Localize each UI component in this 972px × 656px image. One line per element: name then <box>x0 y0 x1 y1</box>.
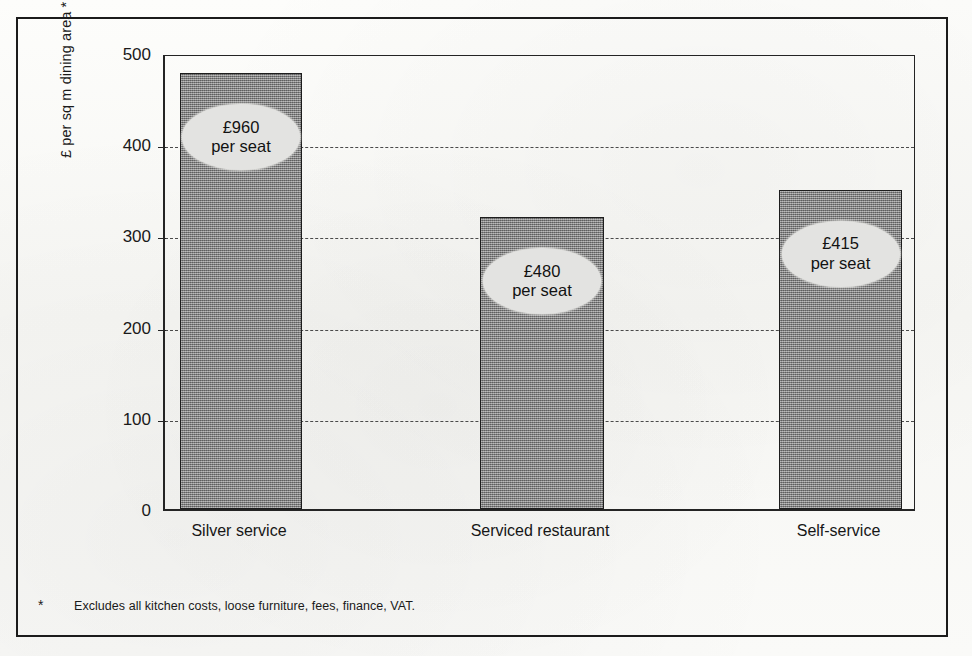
footnote-marker: * <box>38 597 74 613</box>
x-axis-label-self-service: Self-service <box>729 522 949 540</box>
y-axis-title: £ per sq m dining area * <box>58 0 74 158</box>
y-axis-tick-label: 400 <box>95 137 151 154</box>
y-axis-tick-mark <box>158 330 166 331</box>
callout-amount: £480 <box>524 263 561 280</box>
x-axis-label-silver-service: Silver service <box>129 522 349 540</box>
chart-screenshot: £ per sq m dining area * 500400300200100… <box>0 0 972 656</box>
callout-unit: per seat <box>512 282 572 299</box>
footnote: * Excludes all kitchen costs, loose furn… <box>38 597 415 613</box>
callout-self-service: £415per seat <box>782 221 900 287</box>
y-axis-tick-label: 100 <box>95 411 151 428</box>
y-axis-tick-mark <box>158 238 166 239</box>
callout-unit: per seat <box>811 255 871 272</box>
callout-amount: £415 <box>822 235 859 252</box>
y-axis-tick-label: 0 <box>95 502 151 519</box>
callout-serviced-restaurant: £480per seat <box>483 248 601 314</box>
y-axis-tick-label: 300 <box>95 228 151 245</box>
y-axis-tick-mark <box>158 421 166 422</box>
y-axis-tick-label: 200 <box>95 320 151 337</box>
plot-area: £960per seat£480per seat£415per seat <box>163 55 915 511</box>
y-axis-tick-mark <box>158 147 166 148</box>
callout-silver-service: £960per seat <box>182 104 300 170</box>
x-axis-label-serviced-restaurant: Serviced restaurant <box>430 522 650 540</box>
footnote-text: Excludes all kitchen costs, loose furnit… <box>74 599 415 613</box>
y-axis-tick-label: 500 <box>95 46 151 63</box>
callout-amount: £960 <box>223 119 260 136</box>
callout-unit: per seat <box>211 138 271 155</box>
